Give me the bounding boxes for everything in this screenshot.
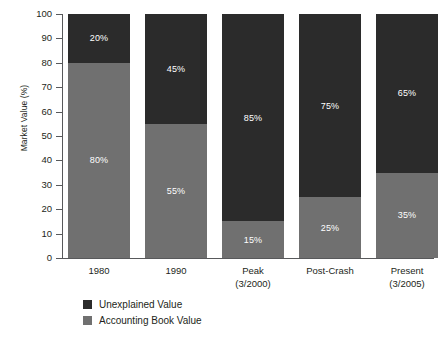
bar-segment-unexplained: 65% bbox=[376, 14, 438, 173]
bar-peak: 85%15% bbox=[222, 14, 284, 258]
y-tick-label-20: 20 bbox=[12, 204, 52, 214]
bar-value-label: 25% bbox=[299, 223, 361, 233]
bar-segment-unexplained: 85% bbox=[222, 14, 284, 221]
y-axis-title: Market Value (%) bbox=[19, 48, 29, 188]
y-tick-label-40: 40 bbox=[12, 155, 52, 165]
bar-value-label: 15% bbox=[222, 235, 284, 245]
bar-value-label: 85% bbox=[222, 113, 284, 123]
bar-segment-book-value: 80% bbox=[68, 63, 130, 258]
bar-segment-unexplained: 45% bbox=[145, 14, 207, 124]
legend-label-unexplained: Unexplained Value bbox=[99, 299, 182, 310]
legend-item-accounting-book-value: Accounting Book Value bbox=[83, 312, 202, 328]
bar-segment-book-value: 35% bbox=[376, 173, 438, 258]
legend-swatch-icon-unexplained bbox=[83, 300, 92, 309]
legend-swatch-icon-book-value bbox=[83, 316, 92, 325]
legend-item-unexplained-value: Unexplained Value bbox=[83, 296, 202, 312]
x-label-sub: (3/2000) bbox=[198, 278, 308, 291]
y-tick-label-60: 60 bbox=[12, 107, 52, 117]
x-label-main: 1980 bbox=[88, 265, 109, 276]
bar-value-label: 55% bbox=[145, 186, 207, 196]
x-label-main: Peak bbox=[242, 265, 264, 276]
y-tick-0 bbox=[56, 258, 62, 259]
bar-1980: 20%80% bbox=[68, 14, 130, 258]
y-tick-label-80: 80 bbox=[12, 58, 52, 68]
y-tick-label-0: 0 bbox=[12, 253, 52, 263]
legend-label-book-value: Accounting Book Value bbox=[99, 315, 202, 326]
x-label-present: Present(3/2005) bbox=[352, 265, 447, 290]
bar-segment-unexplained: 75% bbox=[299, 14, 361, 197]
bar-value-label: 65% bbox=[376, 88, 438, 98]
y-tick-label-50: 50 bbox=[12, 131, 52, 141]
bar-segment-book-value: 55% bbox=[145, 124, 207, 258]
x-label-main: 1990 bbox=[165, 265, 186, 276]
plot-area: 20%80%45%55%85%15%75%25%65%35% bbox=[62, 14, 434, 258]
bar-value-label: 45% bbox=[145, 64, 207, 74]
y-tick-label-10: 10 bbox=[12, 229, 52, 239]
y-tick-label-70: 70 bbox=[12, 82, 52, 92]
x-label-main: Post-Crash bbox=[306, 265, 354, 276]
chart-legend: Unexplained Value Accounting Book Value bbox=[83, 296, 202, 328]
bar-value-label: 80% bbox=[68, 155, 130, 165]
bar-1990: 45%55% bbox=[145, 14, 207, 258]
bar-value-label: 35% bbox=[376, 210, 438, 220]
bar-value-label: 75% bbox=[299, 101, 361, 111]
x-label-main: Present bbox=[391, 265, 424, 276]
bar-post-crash: 75%25% bbox=[299, 14, 361, 258]
bar-segment-unexplained: 20% bbox=[68, 14, 130, 63]
stacked-bar-chart: Market Value (%) 1009080706050403020100 … bbox=[0, 0, 447, 337]
y-tick-label-30: 30 bbox=[12, 180, 52, 190]
bar-segment-book-value: 15% bbox=[222, 221, 284, 258]
x-label-sub: (3/2005) bbox=[352, 278, 447, 291]
x-axis-line bbox=[62, 258, 434, 259]
y-tick-label-90: 90 bbox=[12, 33, 52, 43]
bar-present: 65%35% bbox=[376, 14, 438, 258]
bar-segment-book-value: 25% bbox=[299, 197, 361, 258]
bar-value-label: 20% bbox=[68, 33, 130, 43]
y-tick-label-100: 100 bbox=[12, 9, 52, 19]
